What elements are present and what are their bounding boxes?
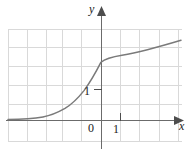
plot-svg bbox=[0, 0, 193, 149]
y-axis-arrow-icon bbox=[97, 6, 106, 16]
curve-path bbox=[8, 40, 181, 119]
y-axis bbox=[97, 6, 106, 149]
grid-lines bbox=[8, 29, 182, 142]
x-tick-one-label: 1 bbox=[113, 123, 119, 135]
x-axis bbox=[6, 116, 184, 125]
x-axis-label: x bbox=[179, 120, 184, 132]
origin-label: 0 bbox=[88, 122, 94, 134]
y-axis-label: y bbox=[89, 3, 94, 15]
y-tick-one-label: 1 bbox=[84, 85, 90, 97]
graph-figure: y x 0 1 1 bbox=[0, 0, 193, 149]
curve-series bbox=[8, 40, 181, 119]
